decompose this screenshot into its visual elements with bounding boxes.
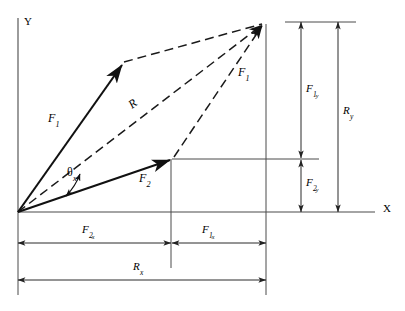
vector-label-F2-main: F [139,171,146,185]
vector-label-F1-sub: 1 [56,120,60,129]
axis-group [18,18,375,212]
dashed-side-from-f1-tip [124,24,262,62]
dim-F2y-main: F [306,176,313,188]
angle-label-sub: x [73,174,77,183]
vector-diagram: Y X F1 F2 R F1 θx F2x F1x Rx F1y F2y Ry [0,0,405,311]
angle-label-main: θ [67,165,73,179]
vector-label-F1t-main: F [238,65,245,79]
dimension-label-Rx: Rx [133,261,143,275]
dim-F2x-main: F [82,223,89,235]
vector-label-F2-sub: 2 [147,180,151,189]
dim-Rx-main: R [133,260,140,272]
vector-label-F1: F1 [48,112,59,128]
y-axis-label: Y [24,16,32,27]
dimension-label-F2x: F2x [82,224,95,238]
dashed-side-from-f2-tip [174,26,262,157]
dim-F1y-main: F [306,82,313,94]
vector-canvas [0,0,405,311]
dim-Ry-sub: y [350,112,353,121]
vector-F1 [18,65,122,212]
x-axis-label: X [383,203,391,214]
dim-Rx-sub: x [140,268,143,277]
extension-lines-group [18,22,356,295]
vector-label-F2: F2 [139,172,150,188]
dimension-label-F2y: F2y [306,177,319,191]
vector-label-F1-main: F [48,111,55,125]
vector-label-F1-translated: F1 [238,66,249,82]
parallelogram-dashed-sides [124,24,262,157]
vector-label-F1t-sub: 1 [246,74,250,83]
dim-F1x-main: F [202,223,209,235]
dimension-label-Ry: Ry [343,105,353,119]
dimension-label-F1x: F1x [202,224,215,238]
dim-Ry-main: R [343,104,350,116]
angle-label-theta-x: θx [67,166,76,182]
dimension-label-F1y: F1y [306,83,319,97]
